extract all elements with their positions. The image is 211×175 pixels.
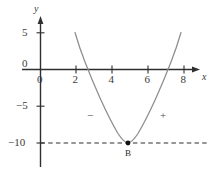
vertex-point-label: B	[125, 149, 131, 158]
vertex-point-marker	[126, 141, 131, 146]
y-tick-label-5: 5	[22, 27, 28, 38]
plot-canvas	[0, 0, 211, 175]
negative-region-sign: −	[87, 110, 93, 121]
x-tick-label-2: 2	[73, 74, 79, 85]
positive-region-sign: +	[160, 110, 166, 121]
x-tick-label-0: 0	[37, 74, 43, 85]
parabola-figure: y x 5 0 −5 −10 0 2 4 6 8 − + B	[0, 0, 211, 175]
x-axis-arrowhead	[192, 67, 200, 73]
x-tick-label-8: 8	[181, 74, 187, 85]
x-tick-label-6: 6	[145, 74, 151, 85]
y-tick-label-minus-10: −10	[8, 137, 25, 148]
y-tick-label-minus-5: −5	[16, 100, 28, 111]
x-tick-label-4: 4	[109, 74, 115, 85]
y-axis-label: y	[34, 4, 38, 14]
parabola-curve	[75, 33, 181, 144]
y-tick-label-0: 0	[22, 58, 28, 69]
x-axis-label: x	[202, 72, 206, 82]
y-axis-arrowhead	[38, 16, 44, 24]
